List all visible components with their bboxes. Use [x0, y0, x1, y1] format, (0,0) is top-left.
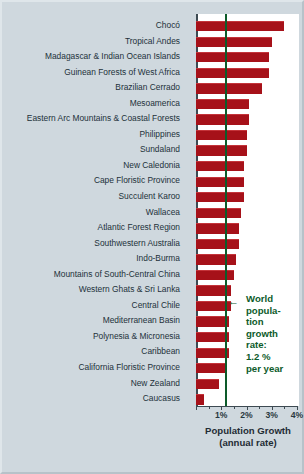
bar-row: [196, 189, 297, 205]
category-label: Polynesia & Micronesia: [0, 329, 186, 345]
bar-row: [196, 96, 297, 112]
bar: [196, 68, 269, 78]
bar: [196, 223, 239, 233]
category-label: Mesoamerica: [0, 96, 186, 112]
bar: [196, 379, 219, 389]
category-label: Guinean Forests of West Africa: [0, 65, 186, 81]
bar: [196, 270, 234, 280]
category-label: Succulent Karoo: [0, 189, 186, 205]
bar-row: [196, 18, 297, 34]
axis-title-sub: (annual rate): [196, 437, 300, 449]
bar: [196, 177, 244, 187]
category-label: Central Chile: [0, 298, 186, 314]
bar: [196, 161, 244, 171]
bar-row: [196, 236, 297, 252]
category-label: Tropical Andes: [0, 34, 186, 50]
bar: [196, 332, 229, 342]
x-axis-tick-label: 2%: [240, 410, 252, 420]
bar-row: [196, 127, 297, 143]
bar: [196, 145, 247, 155]
bar-row: [196, 49, 297, 65]
category-label: Western Ghats & Sri Lanka: [0, 282, 186, 298]
category-label: Caucasus: [0, 391, 186, 407]
x-axis-minor-tick: [259, 406, 260, 409]
category-label: Southwestern Australia: [0, 236, 186, 252]
reference-line-annotation-line: 1.2 %: [246, 351, 302, 363]
bar: [196, 348, 229, 358]
bar: [196, 83, 262, 93]
chart-figure: ChocóTropical AndesMadagascar & Indian O…: [0, 0, 304, 474]
plot-area: ChocóTropical AndesMadagascar & Indian O…: [0, 0, 304, 474]
x-axis-minor-tick: [209, 406, 210, 409]
bar: [196, 394, 204, 404]
bar-row: [196, 158, 297, 174]
reference-line-annotation-line: rate:: [246, 339, 302, 351]
reference-line-annotation: Worldpopula-tiongrowthrate:1.2 %per year: [246, 293, 302, 374]
bar-row: [196, 65, 297, 81]
x-axis-tick-label: 1%: [215, 410, 227, 420]
bar: [196, 37, 272, 47]
category-label: New Zealand: [0, 376, 186, 392]
bar-row: [196, 34, 297, 50]
bar-row: [196, 173, 297, 189]
category-label: Eastern Arc Mountains & Coastal Forests: [0, 111, 186, 127]
category-label: Caribbean: [0, 344, 186, 360]
x-axis-minor-tick: [284, 406, 285, 409]
bar-row: [196, 267, 297, 283]
reference-line-annotation-line: World: [246, 293, 302, 305]
bar: [196, 114, 249, 124]
category-label: Brazilian Cerrado: [0, 80, 186, 96]
category-label: Wallacea: [0, 205, 186, 221]
bar: [196, 254, 236, 264]
reference-line-annotation-line: per year: [246, 363, 302, 375]
category-label: Indo-Burma: [0, 251, 186, 267]
bar: [196, 52, 269, 62]
category-label: New Caledonia: [0, 158, 186, 174]
category-label: Mountains of South-Central China: [0, 267, 186, 283]
category-label: Chocó: [0, 18, 186, 34]
bar: [196, 316, 229, 326]
bar-row: [196, 142, 297, 158]
category-label: Madagascar & Indian Ocean Islands: [0, 49, 186, 65]
x-axis-minor-tick: [234, 406, 235, 409]
reference-line-annotation-line: popula-: [246, 305, 302, 317]
bar-row: [196, 80, 297, 96]
bar: [196, 239, 239, 249]
category-label: Cape Floristic Province: [0, 173, 186, 189]
x-axis-major-tick: [196, 406, 197, 410]
bar: [196, 21, 284, 31]
category-label: Mediterranean Basin: [0, 313, 186, 329]
axis-title-main: Population Growth: [196, 425, 300, 437]
axis-title: Population Growth (annual rate): [196, 425, 300, 448]
bar: [196, 363, 226, 373]
bar-row: [196, 220, 297, 236]
category-label: Philippines: [0, 127, 186, 143]
world-average-reference-line: [225, 14, 227, 406]
bar-row: [196, 111, 297, 127]
x-axis-tick-label: 4%: [291, 410, 303, 420]
reference-line-annotation-line: tion: [246, 316, 302, 328]
bar: [196, 99, 249, 109]
bar-row: [196, 251, 297, 267]
reference-line-arrow-icon: ←: [228, 296, 239, 307]
bar-row: [196, 205, 297, 221]
bar: [196, 130, 247, 140]
bar-row: [196, 376, 297, 392]
x-axis-tick-label: 3%: [266, 410, 278, 420]
category-label: Sundaland: [0, 142, 186, 158]
reference-line-annotation-line: growth: [246, 328, 302, 340]
bar-row: [196, 391, 297, 407]
category-label: California Floristic Province: [0, 360, 186, 376]
bar: [196, 192, 244, 202]
category-label: Atlantic Forest Region: [0, 220, 186, 236]
bar: [196, 208, 241, 218]
category-label-column: ChocóTropical AndesMadagascar & Indian O…: [0, 18, 186, 407]
